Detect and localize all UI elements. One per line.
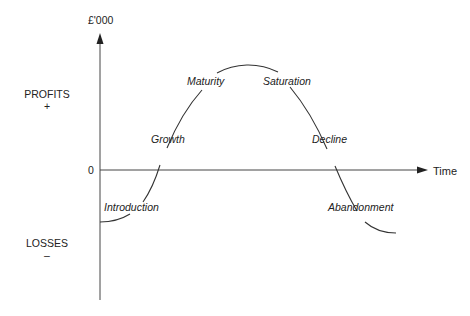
y-axis-arrow-icon	[97, 33, 104, 44]
losses-sign: –	[17, 249, 77, 261]
stage-decline: Decline	[312, 133, 347, 145]
stage-saturation: Saturation	[263, 75, 311, 87]
stage-maturity: Maturity	[187, 75, 224, 87]
losses-label: LOSSES –	[17, 237, 77, 261]
x-axis-label: Time	[433, 165, 457, 177]
life-cycle-diagram	[0, 0, 470, 316]
y-axis-label: £'000	[88, 14, 113, 26]
profits-label: PROFITS +	[17, 88, 77, 112]
profits-sign: +	[17, 100, 77, 112]
stage-introduction: Introduction	[104, 201, 159, 213]
stage-growth: Growth	[151, 133, 185, 145]
x-axis-arrow-icon	[417, 167, 428, 174]
profits-text: PROFITS	[17, 88, 77, 100]
zero-label: 0	[88, 164, 94, 176]
losses-text: LOSSES	[17, 237, 77, 249]
stage-abandonment: Abandonment	[328, 201, 393, 213]
